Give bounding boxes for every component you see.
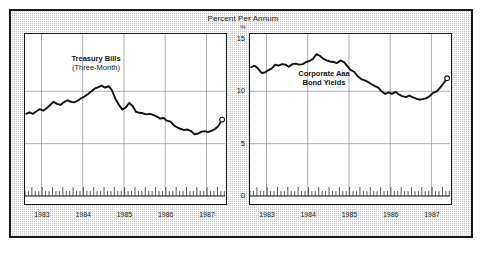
series-label-corporate-aaa: Corporate Aaa Bond Yields — [269, 69, 379, 87]
series-label-line2: (Three-Month) — [41, 63, 151, 72]
series-label-line1: Corporate Aaa — [269, 69, 379, 78]
chart-figure: Percent Per Annum % Treasury Bills (Thre… — [9, 9, 473, 238]
x-tick-1986: 1986 — [378, 210, 404, 219]
x-axis-labels-left: 19831984198519861987 — [24, 210, 227, 220]
chart-title: Percent Per Annum — [11, 14, 475, 24]
x-tick-1983: 1983 — [29, 210, 55, 219]
y-tick-15: 15 — [229, 35, 245, 43]
x-tick-1983: 1983 — [254, 210, 280, 219]
corporate-aaa-line-chart — [250, 34, 450, 203]
x-axis-labels-right: 19831984198519861987 — [249, 210, 452, 220]
y-tick-5: 5 — [229, 140, 245, 148]
endpoint-marker-left — [220, 117, 225, 122]
x-tick-1984: 1984 — [295, 210, 321, 219]
series-label-treasury-bills: Treasury Bills (Three-Month) — [41, 54, 151, 72]
y-tick-10: 10 — [229, 87, 245, 95]
x-tick-1985: 1985 — [111, 210, 137, 219]
panel-corporate-aaa — [249, 33, 452, 205]
plot-area-corporate-aaa — [250, 34, 451, 204]
y-axis-labels: 151050 — [229, 27, 247, 213]
x-tick-1987: 1987 — [194, 210, 220, 219]
x-tick-1985: 1985 — [336, 210, 362, 219]
x-tick-1987: 1987 — [419, 210, 445, 219]
x-tick-1984: 1984 — [70, 210, 96, 219]
x-tick-1986: 1986 — [153, 210, 179, 219]
y-tick-0: 0 — [229, 192, 245, 200]
series-label-line2: Bond Yields — [269, 78, 379, 87]
endpoint-marker-right — [445, 76, 450, 81]
series-label-line1: Treasury Bills — [41, 54, 151, 63]
